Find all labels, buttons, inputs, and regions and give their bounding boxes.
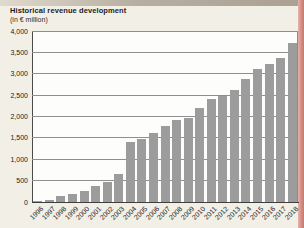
y-axis-label-500: 500 <box>2 177 28 184</box>
y-axis-label-4000: 4,000 <box>2 28 28 35</box>
bar-2008 <box>172 120 181 202</box>
bar-2011 <box>207 99 216 202</box>
bar-2012 <box>218 96 227 202</box>
x-axis-line <box>32 202 299 203</box>
bar-2006 <box>149 133 158 202</box>
bar-2007 <box>161 126 170 202</box>
y-axis-label-1000: 1,000 <box>2 156 28 163</box>
bar-1997 <box>45 200 54 202</box>
bar-2013 <box>230 90 239 202</box>
bar-2010 <box>195 108 204 202</box>
y-axis-label-3000: 3,000 <box>2 70 28 77</box>
bar-2015 <box>253 69 262 202</box>
bar-1996 <box>33 201 42 202</box>
bar-2002 <box>103 182 112 202</box>
page-right-edge <box>298 0 304 228</box>
gridline-3500 <box>32 52 298 53</box>
bar-2016 <box>265 64 274 202</box>
y-axis-label-3500: 3,500 <box>2 49 28 56</box>
chart-title: Historical revenue development <box>10 6 126 15</box>
bar-2003 <box>114 174 123 202</box>
gridline-4000 <box>32 31 298 32</box>
y-axis-label-2000: 2,000 <box>2 113 28 120</box>
bar-2009 <box>184 118 193 202</box>
bar-2014 <box>241 79 250 202</box>
chart-subtitle: (in € million) <box>10 16 48 23</box>
bar-1998 <box>56 196 65 202</box>
y-axis-label-1500: 1,500 <box>2 134 28 141</box>
y-axis-label-2500: 2,500 <box>2 92 28 99</box>
bar-2004 <box>126 142 135 202</box>
bar-2001 <box>91 186 100 202</box>
bar-1999 <box>68 194 77 202</box>
bar-2000 <box>80 191 89 202</box>
bar-2005 <box>137 139 146 202</box>
bar-2018 <box>288 43 297 202</box>
y-axis-label-0: 0 <box>2 199 28 206</box>
bar-2017 <box>276 58 285 202</box>
